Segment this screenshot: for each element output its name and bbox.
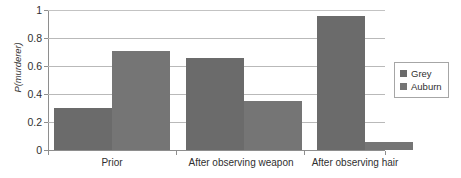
x-tick-mark-1 <box>176 151 177 155</box>
bar-chart-figure: P(murderer) 1 0.8 0.6 0.4 0.2 0 <box>0 0 461 178</box>
legend-item-grey: Grey <box>400 67 442 80</box>
y-tick-label-0: 0 <box>14 144 42 156</box>
legend-label-grey: Grey <box>411 68 432 79</box>
y-tick-label-0.8: 0.8 <box>14 32 42 44</box>
x-axis-label-prior: Prior <box>101 157 122 168</box>
legend-label-auburn: Auburn <box>411 81 442 92</box>
bar-auburn-after-observing-weapon <box>244 101 302 150</box>
x-tick-mark-end <box>385 151 386 155</box>
y-axis-tick-labels: 1 0.8 0.6 0.4 0.2 0 <box>14 0 42 178</box>
bar-grey-after-observing-hair <box>317 16 365 150</box>
legend-swatch-icon-auburn <box>400 83 407 90</box>
x-axis-label-after-observing-weapon: After observing weapon <box>188 157 293 168</box>
bar-grey-prior <box>54 108 112 150</box>
bar-auburn-prior <box>112 51 170 150</box>
plot-area <box>48 10 385 150</box>
x-axis-label-after-observing-hair: After observing hair <box>312 157 399 168</box>
bar-grey-after-observing-weapon <box>186 58 244 150</box>
chart-legend: Grey Auburn <box>394 62 449 98</box>
y-tick-label-0.2: 0.2 <box>14 116 42 128</box>
legend-swatch-icon-grey <box>400 70 407 77</box>
y-tick-label-0.4: 0.4 <box>14 88 42 100</box>
x-tick-mark-start <box>48 151 49 155</box>
legend-item-auburn: Auburn <box>400 80 442 93</box>
gridline-0-axis <box>48 150 385 151</box>
gridline-1 <box>48 10 385 11</box>
y-tick-label-0.6: 0.6 <box>14 60 42 72</box>
x-tick-mark-2 <box>304 151 305 155</box>
y-tick-label-1: 1 <box>14 4 42 16</box>
bar-auburn-after-observing-hair <box>365 142 413 150</box>
